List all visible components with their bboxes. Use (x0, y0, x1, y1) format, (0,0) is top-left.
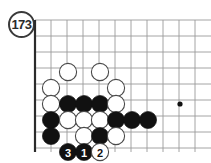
stone-black (91, 95, 108, 112)
stone-black (75, 95, 92, 112)
white-stone-icon (59, 63, 76, 80)
go-diagram: 173 312 (0, 0, 211, 163)
stone-black (123, 111, 140, 128)
white-stone-icon (75, 111, 92, 128)
stone-white (42, 95, 59, 112)
stone-white (42, 79, 59, 96)
black-stone-icon (75, 95, 92, 112)
white-stone-icon (107, 79, 124, 96)
stone-black (42, 111, 59, 128)
white-stone-icon (91, 111, 108, 128)
white-stone-icon (75, 127, 92, 144)
black-stone-icon (139, 111, 156, 128)
move-number-label: 1 (81, 147, 87, 159)
move-stone-2: 2 (91, 143, 108, 160)
stone-black (107, 111, 124, 128)
black-stone-icon (91, 127, 108, 144)
white-stone-icon (91, 63, 108, 80)
black-stone-icon (107, 111, 124, 128)
move-number-label: 3 (65, 147, 71, 159)
stone-white (59, 111, 76, 128)
black-stone-icon (123, 111, 140, 128)
stone-white (107, 79, 124, 96)
stone-black (139, 111, 156, 128)
board-star-points (177, 101, 182, 106)
board-stones: 312 (42, 63, 156, 160)
stone-white (91, 111, 108, 128)
move-number-label: 2 (97, 147, 103, 159)
stone-white (91, 63, 108, 80)
black-stone-icon (42, 127, 59, 144)
go-board: 312 (0, 0, 211, 163)
white-stone-icon (107, 127, 124, 144)
black-stone-icon (59, 95, 76, 112)
white-stone-icon (42, 79, 59, 96)
stone-black (59, 95, 76, 112)
stone-white (75, 127, 92, 144)
star-point-icon (177, 101, 182, 106)
stone-white (107, 95, 124, 112)
stone-white (59, 63, 76, 80)
stone-black (42, 127, 59, 144)
white-stone-icon (59, 111, 76, 128)
stone-black (91, 127, 108, 144)
white-stone-icon (42, 95, 59, 112)
white-stone-icon (107, 95, 124, 112)
black-stone-icon (91, 95, 108, 112)
stone-white (107, 127, 124, 144)
move-stone-1: 1 (75, 143, 92, 160)
black-stone-icon (42, 111, 59, 128)
move-stone-3: 3 (59, 143, 76, 160)
stone-white (75, 111, 92, 128)
